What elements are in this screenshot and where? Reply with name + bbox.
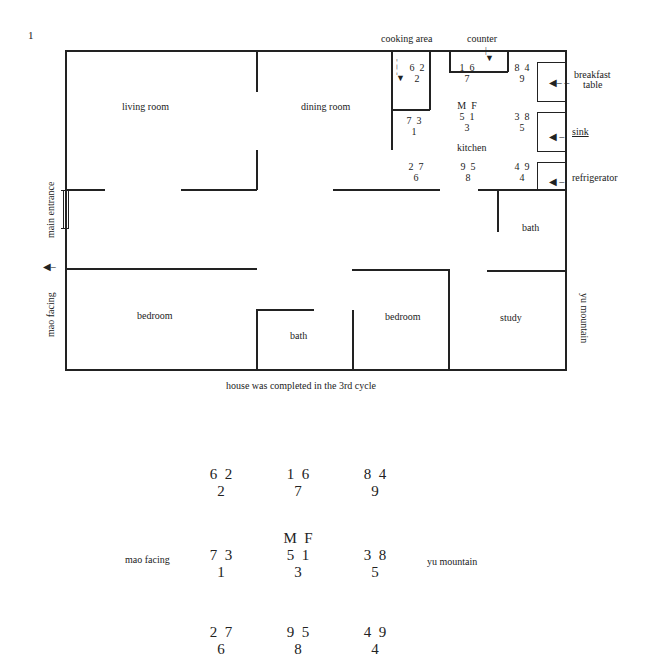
star-ne-bottom: 9 xyxy=(520,73,525,84)
wall-h190-b xyxy=(181,189,257,191)
wall-bath-right xyxy=(497,190,499,232)
star-center-bottom: 3 xyxy=(465,122,470,133)
wall-h190-c xyxy=(333,189,440,191)
grid-cell-top: 4 9 xyxy=(364,624,387,640)
label-main-entrance: main entrance xyxy=(45,182,56,238)
cooking-box-bottom xyxy=(391,109,430,111)
label-cooking-area: cooking area xyxy=(381,34,432,44)
grid-cell-e: 3 85 xyxy=(360,547,390,581)
grid-cell-n: 1 67 xyxy=(283,466,313,500)
grid-cell-sw: 2 76 xyxy=(206,624,236,658)
room-bath-lower: bath xyxy=(290,331,307,341)
arrow-cooking-icon: ¦¦▼ xyxy=(396,58,405,82)
grid-cell-s: 9 58 xyxy=(283,624,313,658)
label-sink: sink xyxy=(572,127,589,137)
wall-h268-b xyxy=(352,269,449,271)
star-se: 4 94 xyxy=(510,161,534,183)
grid-cell-top: 3 8 xyxy=(364,547,387,563)
grid-cell-top: 5 1 xyxy=(287,547,310,563)
grid-cell-bottom: 3 xyxy=(294,564,302,580)
grid-cell-bottom: 1 xyxy=(217,564,225,580)
figure-number: 1 xyxy=(28,30,34,41)
star-s-top: 9 5 xyxy=(461,161,476,172)
wall-h190-a xyxy=(65,189,105,191)
arrow-counter-icon: |▼ xyxy=(485,46,494,62)
grid-cell-top: 6 2 xyxy=(210,466,233,482)
room-bedroom-left: bedroom xyxy=(137,311,173,321)
star-w: 7 31 xyxy=(402,115,426,137)
cooking-box-right xyxy=(429,50,431,110)
star-center-top: 5 1 xyxy=(460,111,475,122)
label-counter: counter xyxy=(467,34,497,44)
label-yu-mountain: yu mountain xyxy=(579,293,590,343)
star-e-bottom: 5 xyxy=(520,122,525,133)
bath-lower-right xyxy=(352,310,354,370)
star-se-bottom: 4 xyxy=(520,172,525,183)
star-ne-top: 8 4 xyxy=(515,62,530,73)
wall-h268-a xyxy=(65,268,257,270)
room-living: living room xyxy=(122,102,169,112)
arrow-breakfast-icon: ◀– – xyxy=(549,78,569,88)
grid-cell-ne: 8 49 xyxy=(360,466,390,500)
grid-cell-bottom: 2 xyxy=(217,483,225,499)
star-s-bottom: 8 xyxy=(466,172,471,183)
star-e: 3 85 xyxy=(510,111,534,133)
grid-header-mf: M F xyxy=(283,530,312,546)
bath-lower-left xyxy=(256,309,258,370)
room-bedroom-middle: bedroom xyxy=(385,312,421,322)
wall-living-dining-lower xyxy=(256,150,258,190)
star-se-top: 4 9 xyxy=(515,161,530,172)
star-n-top: 1 6 xyxy=(460,62,475,73)
room-bath-right: bath xyxy=(522,223,539,233)
label-table: table xyxy=(583,80,602,90)
wall-bottom xyxy=(65,369,567,371)
grid-cell-bottom: 9 xyxy=(371,483,379,499)
label-refrigerator: refrigerator xyxy=(572,173,618,183)
label-mao-facing: mao facing xyxy=(45,292,56,337)
star-sw-top: 2 7 xyxy=(409,161,424,172)
wall-right xyxy=(565,50,567,370)
star-center-header: M F xyxy=(457,100,476,111)
star-w-bottom: 1 xyxy=(412,126,417,137)
grid-label-mao-facing: mao facing xyxy=(125,555,170,565)
grid-cell-bottom: 7 xyxy=(294,483,302,499)
room-study: study xyxy=(500,313,522,323)
grid-cell-top: 7 3 xyxy=(210,547,233,563)
wall-dining-kitchen xyxy=(391,50,393,150)
arrow-refrigerator-icon: ◀ – xyxy=(549,177,564,187)
star-nw-top: 6 2 xyxy=(410,62,425,73)
grid-cell-top: 1 6 xyxy=(287,466,310,482)
star-center: M F5 13 xyxy=(455,100,479,133)
room-kitchen: kitchen xyxy=(457,143,486,153)
star-n: 1 67 xyxy=(455,62,479,84)
star-nw-bottom: 2 xyxy=(415,73,420,84)
grid-cell-se: 4 94 xyxy=(360,624,390,658)
main-entrance-door[interactable] xyxy=(63,190,69,228)
caption: house was completed in the 3rd cycle xyxy=(226,381,376,391)
grid-cell-bottom: 6 xyxy=(217,641,225,657)
wall-bedroom-study xyxy=(448,269,450,370)
wall-living-dining-upper xyxy=(256,50,258,92)
grid-cell-w: 7 31 xyxy=(206,547,236,581)
arrow-mao-facing-icon: ◀– xyxy=(43,262,56,272)
star-nw: 6 22 xyxy=(405,62,429,84)
door-tick-top xyxy=(61,190,69,191)
grid-cell-top: 9 5 xyxy=(287,624,310,640)
grid-cell-bottom: 5 xyxy=(371,564,379,580)
grid-label-yu-mountain: yu mountain xyxy=(427,557,477,567)
star-e-top: 3 8 xyxy=(515,111,530,122)
star-sw: 2 76 xyxy=(404,161,428,183)
counter-box-right xyxy=(507,50,509,72)
grid-cell-center: M F5 13 xyxy=(280,530,316,581)
grid-cell-top: 8 4 xyxy=(364,466,387,482)
star-n-bottom: 7 xyxy=(465,73,470,84)
grid-cell-nw: 6 22 xyxy=(206,466,236,500)
room-dining: dining room xyxy=(301,102,350,112)
counter-box-left xyxy=(449,50,451,72)
grid-cell-bottom: 4 xyxy=(371,641,379,657)
wall-h268-c xyxy=(487,270,566,272)
star-sw-bottom: 6 xyxy=(414,172,419,183)
grid-cell-top: 2 7 xyxy=(210,624,233,640)
star-s: 9 58 xyxy=(456,161,480,183)
door-tick-bottom xyxy=(61,228,69,229)
